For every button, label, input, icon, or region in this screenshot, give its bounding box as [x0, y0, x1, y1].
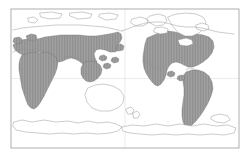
- range-region-island: [116, 44, 124, 51]
- map-canvas: [0, 0, 250, 158]
- landmass-outline-unshaded: [13, 120, 122, 134]
- world-distribution-map-figure: [0, 0, 250, 158]
- landmass-outline-unshaded: [122, 124, 236, 135]
